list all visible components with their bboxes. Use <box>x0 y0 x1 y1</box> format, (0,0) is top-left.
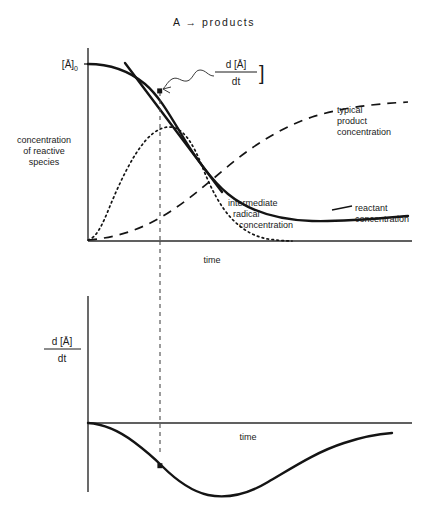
intermediate-label-line1: intermediate <box>228 198 278 208</box>
svg-text:[Ā]0: [Ā]0 <box>62 59 78 72</box>
top-y-origin-label: [Ā]0 <box>62 59 96 72</box>
top-y-axis-label-line1: concentration <box>17 135 71 145</box>
derivative-numerator: d [Ā] <box>226 59 247 70</box>
tangent-point-marker <box>157 88 162 93</box>
bottom-y-axis-label: d [Ā] dt <box>44 336 81 364</box>
product-label-line3: concentration <box>337 127 391 137</box>
reactant-label-line2: concentration <box>355 214 409 224</box>
product-label-line2: product <box>337 116 368 126</box>
product-label-group: typical product concentration <box>337 105 391 137</box>
derivative-annotation: d [Ā] dt ] <box>163 59 265 93</box>
top-y-axis-label-line2: of reactive <box>23 146 65 156</box>
bottom-x-axis-label: time <box>239 432 256 442</box>
product-label-line1: typical <box>337 105 363 115</box>
derivative-denominator: dt <box>232 76 241 87</box>
initial-concentration-sub: 0 <box>74 65 78 72</box>
initial-concentration-base: [Ā] <box>62 59 74 70</box>
tangent-line <box>125 63 222 192</box>
kinetics-figure: A → products [Ā]0 concentration of reac… <box>0 0 429 514</box>
reactant-label-leader <box>332 206 352 210</box>
top-y-axis-label-line3: species <box>29 157 60 167</box>
reactant-label-line1: reactant <box>355 203 388 213</box>
intermediate-label-line2: radical <box>233 209 260 219</box>
rate-point-marker <box>157 463 162 468</box>
derivative-closing-bracket: ] <box>259 62 265 84</box>
intermediate-label-group: intermediate radical concentration <box>228 198 293 230</box>
bottom-y-axis-denominator: dt <box>58 353 67 364</box>
bottom-panel-axes <box>88 296 412 492</box>
figure-title: A → products <box>173 16 255 28</box>
top-x-axis-label: time <box>203 255 220 265</box>
intermediate-label-line3: concentration <box>239 220 293 230</box>
bottom-y-axis-numerator: d [Ā] <box>52 336 73 347</box>
derivative-leader-line <box>163 70 214 89</box>
top-y-axis-label: concentration of reactive species <box>17 135 71 167</box>
